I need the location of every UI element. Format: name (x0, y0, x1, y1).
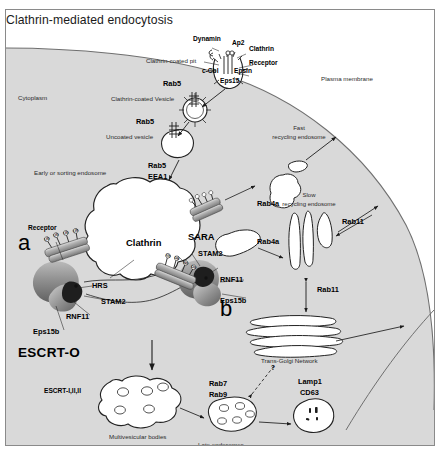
lamp1-label: Lamp1 (298, 378, 322, 385)
trans-golgi-network-label: Trans-Golgi Network (261, 358, 318, 364)
rab7-label: Rab7 (209, 380, 227, 387)
slow-recycling-line1: Slow (274, 192, 344, 198)
multivesicular-bodies-label: Multivesicular bodies (109, 434, 166, 440)
dynamin-label: Dynamin (193, 36, 221, 43)
figure-frame: Ub Ub Ub Ub (5, 9, 435, 446)
panel-b-stam2-label: STAM2 (198, 250, 223, 257)
panel-a-stam2-label: STAM2 (101, 298, 126, 305)
rab11-label-2: Rab11 (317, 286, 339, 293)
receptor-pit-label: Receptor (249, 60, 278, 67)
escrt-chain-label: ESCRT-I,II,II (44, 388, 81, 395)
fast-recycling-line1: Fast (264, 125, 334, 131)
cytoplasm-label: Cytoplasm (18, 95, 47, 101)
rab11-label-1: Rab11 (342, 218, 364, 225)
fast-recycling-line2: recycling endosome (264, 134, 334, 140)
ap2-label: Ap2 (232, 40, 244, 47)
rab5-eea1-line1: Rab5 (148, 162, 166, 169)
rab4a-label-2: Rab4a (257, 238, 279, 245)
panel-a-receptor-label: Receptor (28, 225, 57, 232)
figure-canvas: Ub Ub Ub Ub (0, 0, 439, 464)
slow-recycling-line2: recycling endosome (269, 201, 349, 207)
panel-a-clathrin-label: Clathrin (126, 238, 161, 247)
panel-a-eps15b-label: Eps15b (33, 328, 59, 335)
rab9-label: Rab9 (209, 391, 227, 398)
lysosomes-label: Lysosomes (291, 444, 322, 446)
panel-b-eps15b-label: Eps15b (220, 297, 246, 304)
early-sorting-endosome-label: Early or sorting endosome (34, 170, 106, 176)
cd63-label: CD63 (300, 389, 319, 396)
panel-a-rnf11-label: RNF11 (66, 313, 89, 320)
panel-a-label: a (18, 232, 30, 254)
figure-title: Clathrin-mediated endocytosis (6, 14, 434, 26)
rab5-label-1: Rab5 (163, 80, 181, 87)
rab5-eea1-line2: EEA1 (148, 173, 167, 180)
question-mark-annotation: ? (271, 365, 275, 372)
c-cbl-label: c-Cbl (202, 68, 218, 75)
panel-a-hrs-label: HRS (92, 282, 108, 289)
epsin-label: Epsin (234, 68, 252, 75)
panel-b-rnf11-label: RNF11 (220, 276, 243, 283)
clathrin-coated-pit-label: Clathrin-coated pit (146, 58, 196, 64)
clathrin-coated-vesicle-label: Clathrin-coated Vesicle (111, 96, 174, 102)
eps15-label: Eps15 (220, 78, 239, 85)
plasma-membrane-label: Plasma membrane (321, 76, 373, 82)
late-endosomes-label: Late endosomes (198, 442, 244, 446)
rab5-label-2: Rab5 (136, 118, 154, 125)
clathrin-pit-label: Clathrin (249, 46, 274, 53)
uncoated-vesicle-label: Uncoated vesicle (106, 134, 153, 140)
escrt-o-title: ESCRT-O (18, 346, 80, 360)
panel-b-sara-label: SARA (188, 232, 215, 241)
